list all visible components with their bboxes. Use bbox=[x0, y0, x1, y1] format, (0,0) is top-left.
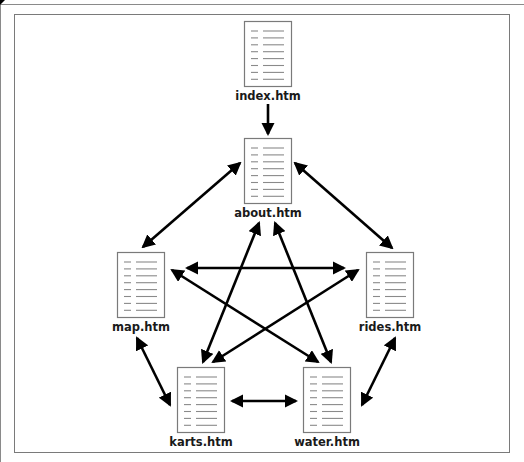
html-document-icon bbox=[178, 368, 225, 433]
node-label: about.htm bbox=[234, 206, 302, 220]
bidirectional-arrow-rides-water bbox=[362, 338, 395, 405]
node-index: index.htm bbox=[235, 22, 301, 104]
node-label: water.htm bbox=[294, 435, 360, 449]
node-map: map.htm bbox=[112, 253, 170, 335]
html-document-icon bbox=[367, 253, 414, 318]
bidirectional-arrow-about-karts bbox=[203, 223, 259, 362]
node-label: rides.htm bbox=[359, 320, 422, 334]
node-label: index.htm bbox=[235, 89, 301, 103]
node-about: about.htm bbox=[234, 139, 302, 221]
html-document-icon bbox=[118, 253, 165, 318]
node-water: water.htm bbox=[294, 368, 360, 450]
site-navigation-diagram: index.htmabout.htmmap.htmrides.htmkarts.… bbox=[0, 0, 524, 462]
node-karts: karts.htm bbox=[169, 368, 232, 450]
html-document-icon bbox=[245, 139, 292, 204]
bidirectional-arrow-about-map bbox=[143, 163, 240, 247]
node-label: map.htm bbox=[112, 320, 170, 334]
bidirectional-arrow-map-water bbox=[172, 270, 318, 362]
node-label: karts.htm bbox=[169, 435, 232, 449]
bidirectional-arrow-map-karts bbox=[137, 338, 170, 405]
bidirectional-arrow-about-rides bbox=[295, 163, 392, 248]
html-document-icon bbox=[304, 368, 351, 433]
html-document-icon bbox=[245, 22, 292, 87]
node-rides: rides.htm bbox=[359, 253, 422, 335]
